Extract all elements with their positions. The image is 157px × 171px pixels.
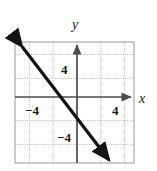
- y-axis-tick-label-positive: 4: [61, 63, 68, 76]
- y-axis-tick-label-negative: −4: [57, 131, 71, 144]
- x-axis-tick-label-negative: −4: [25, 104, 39, 117]
- x-axis-tick-label-positive: 4: [112, 104, 119, 117]
- x-axis-name: x: [139, 92, 145, 106]
- coordinate-plane: [0, 0, 157, 171]
- y-axis-name: y: [72, 18, 78, 32]
- graph-figure: 4 −4 4 −4 x y: [0, 0, 157, 171]
